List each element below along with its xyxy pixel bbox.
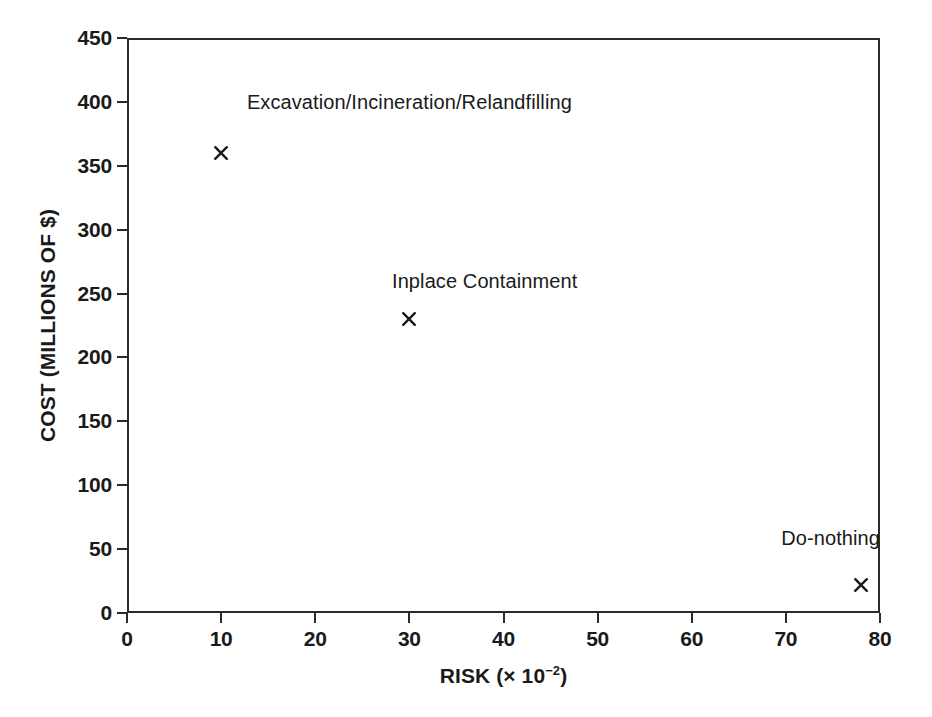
x-axis-tick-label: 30: [398, 627, 421, 651]
y-axis-tick: [117, 37, 127, 39]
x-axis-tick-label: 70: [774, 627, 797, 651]
y-axis-tick: [117, 101, 127, 103]
x-axis-tick-label: 60: [680, 627, 703, 651]
x-axis-tick: [126, 613, 128, 623]
x-axis-title-exponent: −2: [545, 663, 560, 678]
x-axis-tick-label: 40: [492, 627, 515, 651]
y-axis-tick: [117, 484, 127, 486]
y-axis-tick-label-text: 350: [78, 154, 112, 178]
x-axis-title-suffix: ): [560, 664, 567, 687]
y-axis-tick-label-text: 450: [78, 26, 112, 50]
data-point-marker: [400, 310, 418, 328]
x-axis-tick-label: 50: [586, 627, 609, 651]
scatter-chart-figure: 050100150200250300350400450 010203040506…: [0, 0, 932, 717]
y-axis-tick: [117, 356, 127, 358]
x-axis-tick: [408, 613, 410, 623]
data-point-label: Inplace Containment: [392, 270, 577, 293]
y-axis-tick-label-text: 50: [89, 537, 112, 561]
x-axis-tick: [597, 613, 599, 623]
x-axis-title: RISK (× 10−2): [127, 664, 880, 688]
x-axis-tick-label: 0: [121, 627, 132, 651]
x-axis-title-prefix: RISK (× 10: [440, 664, 545, 687]
x-axis-tick: [691, 613, 693, 623]
y-axis-tick: [117, 229, 127, 231]
x-axis-tick-label: 20: [304, 627, 327, 651]
x-axis-tick: [879, 613, 881, 623]
y-axis-tick-label-text: 200: [78, 345, 112, 369]
y-axis-tick: [117, 548, 127, 550]
x-axis-tick-label: 10: [210, 627, 233, 651]
x-axis-tick: [220, 613, 222, 623]
x-axis-tick: [503, 613, 505, 623]
y-axis-tick: [117, 420, 127, 422]
y-axis-tick: [117, 293, 127, 295]
x-axis-tick: [785, 613, 787, 623]
data-point-label: Do-nothing: [781, 527, 880, 550]
y-axis-tick-label-text: 100: [78, 473, 112, 497]
y-axis-tick-label-text: 400: [78, 90, 112, 114]
y-axis-tick-label-text: 0: [101, 601, 112, 625]
y-axis-tick-label-text: 300: [78, 218, 112, 242]
y-axis-title: COST (MILLIONS OF $): [36, 38, 60, 613]
data-point-marker: [212, 144, 230, 162]
data-point-marker: [852, 576, 870, 594]
data-point-label: Excavation/Incineration/Relandfilling: [247, 91, 572, 114]
y-axis-tick: [117, 165, 127, 167]
y-axis-tick-label-text: 250: [78, 282, 112, 306]
x-axis-tick-label: 80: [869, 627, 892, 651]
y-axis-tick-label-text: 150: [78, 409, 112, 433]
plot-area-frame: [127, 38, 880, 613]
x-axis-tick: [314, 613, 316, 623]
